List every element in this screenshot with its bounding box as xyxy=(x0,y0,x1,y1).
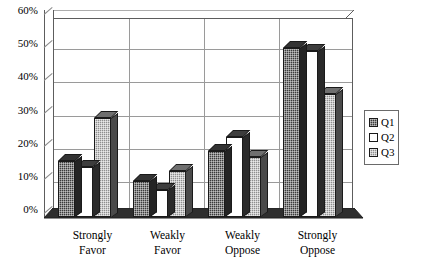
bar-front-face xyxy=(133,181,150,217)
legend: Q1Q2Q3 xyxy=(364,110,399,165)
bar-chart: 0%10%20%30%40%50%60% StronglyFavorWeakly… xyxy=(0,0,422,271)
bar-side-face xyxy=(111,112,118,217)
bar-front-face xyxy=(208,151,225,217)
bar-q1-2 xyxy=(208,151,225,217)
legend-item-q2: Q2 xyxy=(369,130,394,145)
legend-label: Q2 xyxy=(381,132,394,143)
y-axis-tick-label: 60% xyxy=(2,5,38,16)
bar-q1-3 xyxy=(283,48,300,217)
x-axis-labels: StronglyFavorWeaklyFavorWeaklyOpposeStro… xyxy=(53,228,363,270)
category-label-line: Weakly xyxy=(125,228,211,243)
legend-label: Q3 xyxy=(381,147,394,158)
bar-side-face xyxy=(75,156,82,217)
x-axis-category-label: WeaklyOppose xyxy=(200,228,286,258)
legend-item-q1: Q1 xyxy=(369,115,394,130)
y-axis-tick-label: 40% xyxy=(2,71,38,82)
bar-side-face xyxy=(93,162,100,217)
bar-side-face xyxy=(150,175,157,217)
bars-layer xyxy=(53,18,353,217)
x-axis-category-label: WeaklyFavor xyxy=(125,228,211,258)
category-label-line: Favor xyxy=(50,243,136,258)
bar-side-face xyxy=(336,89,343,217)
y-axis-tick-label: 10% xyxy=(2,171,38,182)
bar-side-face xyxy=(300,43,307,217)
category-label-line: Favor xyxy=(125,243,211,258)
y-axis-tick-label: 50% xyxy=(2,38,38,49)
category-label-line: Oppose xyxy=(275,243,361,258)
bar-side-face xyxy=(225,146,232,217)
bar-side-face xyxy=(318,46,325,217)
bar-q1-0 xyxy=(58,161,75,217)
bar-front-face xyxy=(58,161,75,217)
legend-swatch-icon xyxy=(369,148,378,157)
y-axis-tick-label: 0% xyxy=(2,204,38,215)
legend-swatch-icon xyxy=(369,118,378,127)
x-axis-category-label: StronglyOppose xyxy=(275,228,361,258)
category-label-line: Weakly xyxy=(200,228,286,243)
bar-side-face xyxy=(186,165,193,217)
bar-front-face xyxy=(283,48,300,217)
y-axis: 0%10%20%30%40%50%60% xyxy=(0,0,38,271)
category-label-line: Strongly xyxy=(50,228,136,243)
y-axis-tick-label: 30% xyxy=(2,105,38,116)
legend-swatch-icon xyxy=(369,133,378,142)
legend-label: Q1 xyxy=(381,117,394,128)
category-label-line: Strongly xyxy=(275,228,361,243)
y-axis-tick-label: 20% xyxy=(2,138,38,149)
legend-item-q3: Q3 xyxy=(369,145,394,160)
bar-q1-1 xyxy=(133,181,150,217)
x-axis-category-label: StronglyFavor xyxy=(50,228,136,258)
bar-side-face xyxy=(261,152,268,217)
category-label-line: Oppose xyxy=(200,243,286,258)
bar-side-face xyxy=(243,132,250,217)
